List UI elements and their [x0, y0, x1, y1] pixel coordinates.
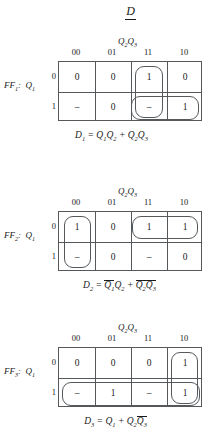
flipflop-label-ff2: FF2: Q1	[4, 230, 35, 242]
row-header: 0	[44, 61, 56, 91]
row-headers-2: 0 1	[44, 211, 56, 271]
row-headers-3: 0 1	[44, 347, 56, 407]
row-header: 1	[44, 377, 56, 407]
kmap-cell: –	[59, 92, 95, 122]
equation-d3: D3 = Q1 + Q2Q3	[0, 416, 213, 429]
kmap-cell: 0	[131, 348, 167, 378]
flipflop-label-ff3: FF3: Q1	[4, 366, 35, 378]
column-header: 00	[58, 197, 94, 207]
kmap-cell: 0	[167, 242, 203, 272]
equation-d1: D1 = Q1Q2 + Q2Q3	[0, 130, 213, 142]
column-header: 10	[166, 333, 202, 343]
equation-d1-text: D1 = Q1Q2 + Q2Q3	[75, 130, 148, 140]
kmap-cell: 0	[59, 62, 95, 92]
kmap-cell: 0	[95, 62, 131, 92]
row-header: 1	[44, 91, 56, 121]
row-header: 0	[44, 211, 56, 241]
column-header: 00	[58, 333, 94, 343]
equation-d3-text: D3 = Q1 + Q2Q3	[84, 416, 147, 426]
column-header: 10	[166, 197, 202, 207]
kmap-figure: D Q2Q3 00 01 11 10 FF1: Q1 0 1 0 0 1 0 –…	[0, 0, 213, 446]
column-headers-3: 00 01 11 10	[58, 333, 202, 343]
equation-d2-text: D2 = Q1Q2 + Q2Q3	[83, 280, 156, 290]
kmap-grid-ff2: 1 0 1 1 – 0 – 0	[58, 211, 202, 271]
group-row0-11-10	[132, 216, 198, 239]
column-header: 10	[166, 47, 202, 57]
column-header: 01	[94, 47, 130, 57]
kmap-grid-ff1: 0 0 1 0 – 0 – 1	[58, 61, 202, 121]
column-header: 11	[130, 47, 166, 57]
column-header: 11	[130, 333, 166, 343]
column-header: 01	[94, 333, 130, 343]
kmap-cell: 0	[95, 212, 131, 242]
kmap-cell: 0	[59, 348, 95, 378]
kmap-cell: 0	[95, 348, 131, 378]
group-column-10	[171, 352, 198, 404]
column-header: 00	[58, 47, 94, 57]
kmap-cell: 0	[167, 62, 203, 92]
figure-title-text: D	[125, 4, 136, 20]
figure-title: D	[0, 4, 213, 19]
row-headers-1: 0 1	[44, 61, 56, 121]
equation-d2: D2 = Q1Q2 + Q2Q3	[0, 280, 213, 293]
column-headers-1: 00 01 11 10	[58, 47, 202, 57]
kmap-cell: 0	[95, 92, 131, 122]
column-header: 11	[130, 197, 166, 207]
kmap-cell: 0	[95, 242, 131, 272]
group-row1-11-10	[131, 96, 199, 120]
row-header: 1	[44, 241, 56, 271]
kmap-grid-ff3: 0 0 0 1 – 1 – 1	[58, 347, 202, 407]
flipflop-label-ff1: FF1: Q1	[4, 80, 35, 92]
row-header: 0	[44, 347, 56, 377]
kmap-cell: –	[131, 242, 167, 272]
column-header: 01	[94, 197, 130, 207]
group-column-00	[64, 216, 91, 268]
column-headers-2: 00 01 11 10	[58, 197, 202, 207]
